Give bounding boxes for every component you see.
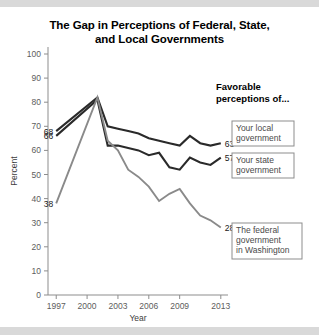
line-chart-svg: 0102030405060708090100 19972000200320062… <box>0 7 319 327</box>
y-tick-label-60: 60 <box>32 145 42 155</box>
y-tick-label-80: 80 <box>32 97 42 107</box>
x-tick-label-2006: 2006 <box>139 301 158 311</box>
legend-label-federal-line-1: The federal <box>236 225 279 235</box>
start-label-your-state-government: 66 <box>44 131 54 141</box>
y-tick-labels: 0102030405060708090100 <box>27 49 41 300</box>
y-tick-label-70: 70 <box>32 121 42 131</box>
y-tick-label-20: 20 <box>32 242 42 252</box>
legend-label-state-line-2: government <box>236 165 282 175</box>
y-tick-label-30: 30 <box>32 218 42 228</box>
chart-axes: 0102030405060708090100 19972000200320062… <box>27 47 231 311</box>
y-tick-label-0: 0 <box>36 290 41 300</box>
x-axis-title: Year <box>129 313 146 323</box>
x-tick-label-2009: 2009 <box>170 301 189 311</box>
bottom-background-band <box>0 327 319 335</box>
y-tick-label-100: 100 <box>27 49 41 59</box>
x-tick-labels: 199720002003200620092013 <box>47 301 231 311</box>
legend-title-line-1: Favorable <box>216 81 261 92</box>
x-tick-label-2003: 2003 <box>108 301 127 311</box>
y-tick-label-40: 40 <box>32 194 42 204</box>
x-tick-label-2000: 2000 <box>78 301 97 311</box>
y-tick-label-50: 50 <box>32 170 42 180</box>
x-tick-label-1997: 1997 <box>47 301 66 311</box>
legend-label-federal-line-3: in Washington <box>236 245 290 255</box>
legend-label-federal-line-2: government <box>236 235 282 245</box>
series-start-labels: 686638 <box>44 127 54 209</box>
x-tick-label-2013: 2013 <box>211 301 230 311</box>
y-axis-title: Percent <box>9 156 19 186</box>
y-tick-label-10: 10 <box>32 266 42 276</box>
x-tick-marks <box>56 295 221 299</box>
y-tick-marks <box>44 54 48 295</box>
top-background-band <box>0 0 319 7</box>
legend-label-local-line-1: Your local <box>236 123 273 133</box>
start-label-the-federal-government-in-washington: 38 <box>44 199 54 209</box>
legend-title-line-2: perceptions of... <box>216 93 289 104</box>
series-lines <box>56 97 221 227</box>
series-line-the-federal-government-in-washington <box>56 97 221 227</box>
chart-figure: The Gap in Perceptions of Federal, State… <box>0 7 319 327</box>
legend-label-state-line-1: Your state <box>236 155 274 165</box>
legend-label-local-line-2: government <box>236 133 282 143</box>
y-tick-label-90: 90 <box>32 73 42 83</box>
